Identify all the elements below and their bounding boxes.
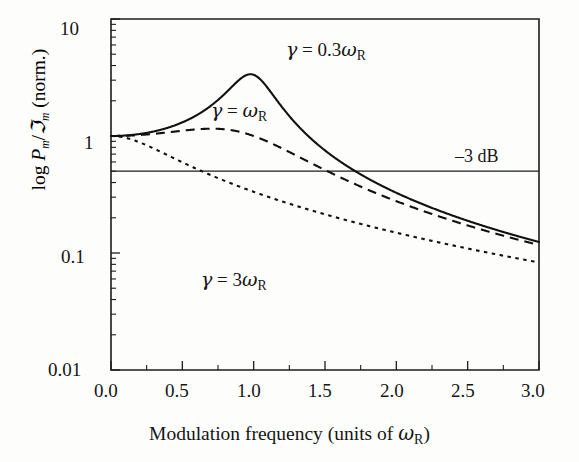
curve-label-gamma-0p3-omega-sub: R: [357, 48, 366, 63]
y-tick-label-10: 10: [60, 19, 79, 38]
y-axis-title-prefix: log: [28, 161, 49, 191]
curve-label-gamma-3-equals: =: [212, 269, 232, 290]
x-tick-label-1.5: 1.5: [308, 381, 332, 400]
y-axis-title-denominator: ℑ: [28, 121, 49, 135]
y-axis-title-slash: /: [28, 135, 49, 140]
y-tick-label-0.1: 0.1: [61, 247, 85, 266]
curve-label-gamma-3-omega-sub: R: [258, 278, 267, 293]
curve-label-gamma-1-omega-sub: R: [258, 109, 267, 124]
curve-label-gamma-3-gamma: γ: [201, 268, 212, 290]
y-axis-title: log Pm/ℑm (norm.): [27, 0, 50, 255]
curve-label-gamma-1: γ = ωR: [211, 101, 267, 124]
curve-label-gamma-1-omega: ω: [243, 99, 259, 121]
x-axis-title-main: Modulation frequency (units of: [149, 423, 398, 444]
axis-ticks: [111, 19, 539, 370]
curve-label-gamma-0p3-omega: ω: [341, 38, 357, 60]
x-tick-label-3.0: 3.0: [521, 381, 545, 400]
x-axis-title-close: ): [423, 423, 430, 444]
data-curves: [111, 74, 539, 262]
curve-label-gamma-0p3: γ = 0.3ωR: [286, 40, 366, 63]
y-axis-title-denominator-sub: m: [39, 113, 51, 121]
x-axis-title: Modulation frequency (units of ωR): [0, 424, 579, 446]
y-tick-label-1: 1: [84, 133, 94, 152]
x-tick-label-2.5: 2.5: [451, 381, 475, 400]
x-axis-title-omega: ω: [398, 422, 414, 445]
curve-label-gamma-3-omega: ω: [242, 268, 258, 290]
reference-line-label: –3 dB: [455, 147, 499, 165]
x-tick-label-0.0: 0.0: [94, 381, 118, 400]
curve-label-gamma-0p3-gamma: γ: [286, 38, 297, 60]
plot-frame: [111, 19, 539, 370]
chart-canvas: [0, 0, 579, 462]
curve-label-gamma-0p3-coef: 0.3: [318, 39, 342, 60]
curve-label-gamma-1-equals: =: [222, 100, 242, 121]
x-tick-label-2.0: 2.0: [380, 381, 404, 400]
x-tick-label-1.0: 1.0: [237, 381, 261, 400]
y-axis-title-numerator-sub: m: [39, 140, 51, 148]
y-axis-title-suffix: (norm.): [28, 49, 49, 113]
y-axis-title-numerator: P: [28, 149, 49, 161]
curve-label-gamma-0p3-equals: =: [297, 39, 317, 60]
y-tick-label-0.01: 0.01: [48, 360, 81, 379]
x-tick-label-0.5: 0.5: [165, 381, 189, 400]
curve-label-gamma-3: γ = 3ωR: [201, 270, 267, 293]
curve-label-gamma-3-coef: 3: [233, 269, 243, 290]
curve-label-gamma-1-gamma: γ: [211, 99, 222, 121]
figure-container: 10 1 0.1 0.01 0.0 0.5 1.0 1.5 2.0 2.5 3.…: [0, 0, 579, 462]
